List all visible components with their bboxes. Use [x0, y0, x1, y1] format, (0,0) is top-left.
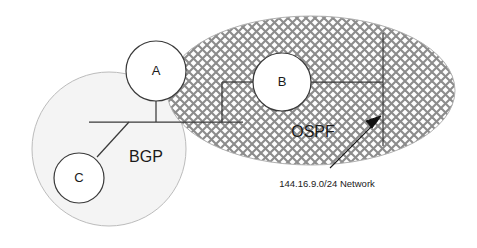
node-b[interactable]: B — [253, 53, 311, 111]
bgp-domain-label: BGP — [129, 148, 163, 165]
node-c[interactable]: C — [54, 153, 104, 203]
diagram-canvas: 144.16.9.0/24 Network A B C BGP OSPF — [0, 0, 477, 248]
ospf-domain-ellipse — [167, 16, 455, 165]
ospf-domain-region — [167, 16, 455, 165]
network-144-label: 144.16.9.0/24 Network — [279, 178, 375, 189]
node-b-label: B — [278, 74, 287, 89]
node-a[interactable]: A — [126, 41, 186, 101]
ospf-domain-label: OSPF — [291, 123, 335, 140]
network-diagram: 144.16.9.0/24 Network A B C BGP OSPF — [0, 0, 477, 248]
node-a-label: A — [152, 63, 161, 78]
node-c-label: C — [74, 170, 83, 185]
